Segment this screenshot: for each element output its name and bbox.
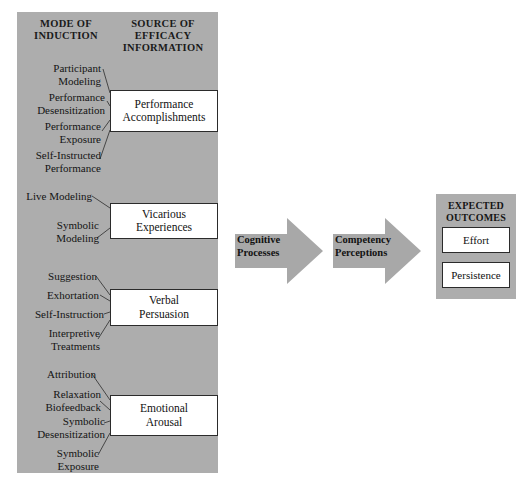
induction-label-line2: Biofeedback [0, 401, 101, 414]
induction-label-line1: Self-Instruction [0, 308, 104, 321]
induction-label-line1: Symbolic [0, 415, 105, 428]
induction-label-symbolic-desensitization: Symbolic Desensitization [0, 415, 105, 440]
induction-label-line1: Symbolic [0, 447, 99, 460]
flow-arrow-label-line1: Competency [335, 234, 399, 247]
source-box-line1: Performance [122, 98, 205, 112]
source-box-line1: Vicarious [136, 208, 192, 222]
source-box-line2: Experiences [136, 221, 192, 235]
flow-arrow-label: Cognitive Processes [237, 234, 295, 259]
induction-label-line2: Desensitization [0, 428, 105, 441]
outcome-box-persistence: Persistence [442, 262, 510, 288]
induction-label-line1: Participant [0, 62, 101, 75]
outcome-box-effort: Effort [442, 227, 510, 253]
induction-label-line2: Modeling [0, 75, 101, 88]
induction-label-self-instruction: Self-Instruction [0, 308, 104, 321]
induction-label-line1: Self-Instructed [0, 149, 101, 162]
expected-outcomes-title: EXPECTED OUTCOMES [436, 200, 516, 223]
induction-label-line2: Exposure [0, 460, 99, 473]
expected-outcomes-title-line2: OUTCOMES [436, 212, 516, 224]
expected-outcomes-panel: EXPECTED OUTCOMES Effort Persistence [436, 194, 516, 299]
flow-arrow-label: Competency Perceptions [335, 234, 399, 259]
column-heading-mode-line2: INDUCTION [24, 30, 108, 42]
induction-label-line1: Attribution [0, 368, 96, 381]
induction-label-attribution: Attribution [0, 368, 96, 381]
induction-label-line1: Exhortation [0, 289, 99, 302]
flow-arrow-cognitive-processes: Cognitive Processes [235, 218, 323, 284]
induction-label-relaxation-biofeedback: Relaxation Biofeedback [0, 388, 101, 413]
induction-label-self-instructed-performance: Self-Instructed Performance [0, 149, 101, 174]
source-box-line2: Persuasion [139, 308, 189, 322]
induction-label-line1: Live Modeling [0, 190, 92, 203]
column-heading-source-of-efficacy-information: SOURCE OF EFFICACY INFORMATION [115, 18, 211, 54]
source-box-line2: Arousal [140, 416, 188, 430]
induction-label-line1: Interpretive [0, 327, 100, 340]
induction-label-line1: Suggestion [0, 270, 97, 283]
source-box-vicarious-experiences: Vicarious Experiences [110, 203, 218, 239]
induction-label-interpretive-treatments: Interpretive Treatments [0, 327, 100, 352]
induction-label-exhortation: Exhortation [0, 289, 99, 302]
source-box-line1: Emotional [140, 402, 188, 416]
induction-label-line2: Exposure [0, 133, 101, 146]
flow-arrow-label-line1: Cognitive [237, 234, 295, 247]
induction-label-line1: Performance [0, 120, 101, 133]
column-heading-source-line1: SOURCE OF [115, 18, 211, 30]
induction-label-performance-desensitization: Performance Desensitization [0, 91, 105, 116]
induction-label-participant-modeling: Participant Modeling [0, 62, 101, 87]
column-heading-mode-of-induction: MODE OF INDUCTION [24, 18, 108, 42]
induction-label-line2: Performance [0, 162, 101, 175]
source-box-verbal-persuasion: Verbal Persuasion [110, 289, 218, 326]
outcome-box-label: Persistence [451, 269, 500, 281]
column-heading-source-line2: EFFICACY [115, 30, 211, 42]
source-box-line1: Verbal [139, 294, 189, 308]
outcome-box-label: Effort [463, 234, 489, 246]
induction-label-suggestion: Suggestion [0, 270, 97, 283]
induction-label-live-modeling: Live Modeling [0, 190, 92, 203]
induction-label-line2: Modeling [0, 232, 99, 245]
induction-label-line2: Desensitization [0, 104, 105, 117]
induction-label-line2: Treatments [0, 340, 100, 353]
induction-label-line1: Performance [0, 91, 105, 104]
induction-label-symbolic-modeling: Symbolic Modeling [0, 219, 99, 244]
column-heading-mode-line1: MODE OF [24, 18, 108, 30]
flow-arrow-label-line2: Perceptions [335, 247, 399, 260]
flow-arrow-competency-perceptions: Competency Perceptions [333, 218, 421, 284]
induction-label-performance-exposure: Performance Exposure [0, 120, 101, 145]
induction-label-line1: Symbolic [0, 219, 99, 232]
column-heading-source-line3: INFORMATION [115, 42, 211, 54]
diagram-canvas: MODE OF INDUCTION SOURCE OF EFFICACY INF… [0, 0, 527, 493]
source-box-line2: Accomplishments [122, 111, 205, 125]
induction-label-line1: Relaxation [0, 388, 101, 401]
induction-label-symbolic-exposure: Symbolic Exposure [0, 447, 99, 472]
source-box-performance-accomplishments: Performance Accomplishments [110, 90, 218, 132]
source-box-emotional-arousal: Emotional Arousal [110, 395, 218, 436]
expected-outcomes-title-line1: EXPECTED [436, 200, 516, 212]
flow-arrow-label-line2: Processes [237, 247, 295, 260]
